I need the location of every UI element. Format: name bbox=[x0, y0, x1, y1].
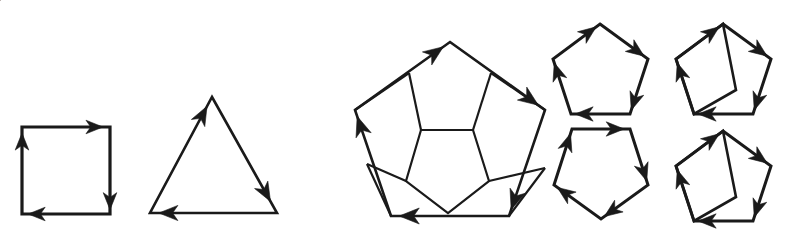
figure-background bbox=[0, 0, 794, 236]
directed-polygons-canvas bbox=[0, 0, 794, 236]
figure-root: Black line-art figure on a white backgro… bbox=[0, 0, 794, 236]
figure-description: Black line-art figure on a white backgro… bbox=[0, 0, 1, 1]
